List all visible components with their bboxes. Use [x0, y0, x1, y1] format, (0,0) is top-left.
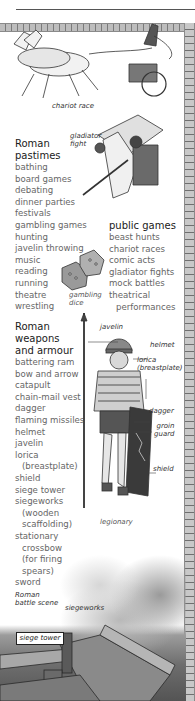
list-item: hunting: [15, 232, 87, 244]
list-item: javelin: [15, 438, 84, 450]
list-item: (breastplate): [15, 461, 84, 473]
pastimes-heading: Roman pastimes: [15, 138, 87, 162]
label-line: guard: [154, 430, 175, 438]
label-dagger: dagger: [149, 407, 174, 415]
list-item: board games: [15, 174, 87, 186]
gambling-dice-illustration: [60, 250, 105, 290]
list-item: siegeworks: [15, 496, 84, 508]
public-games-list: beast hunts chariot races comic acts gla…: [109, 232, 176, 313]
list-item: chariot races: [109, 244, 176, 256]
label-javelin: javelin: [100, 323, 123, 331]
siege-tower-label: siege tower: [16, 632, 64, 645]
chariot-race-caption: chariot race: [52, 102, 94, 110]
label-groin-guard: groin guard: [154, 422, 175, 438]
caption-line: Roman: [15, 591, 58, 599]
list-item: (wooden: [15, 508, 84, 520]
list-item: bathing: [15, 162, 87, 174]
siegeworks-caption: siegeworks: [65, 604, 104, 612]
top-rule: [16, 9, 195, 10]
list-item: gladiator fights: [109, 267, 176, 279]
list-item: chain-mail vest: [15, 392, 84, 404]
list-item: beast hunts: [109, 232, 176, 244]
list-item: shield: [15, 473, 84, 485]
list-item: festivals: [15, 208, 87, 220]
list-item: bow and arrow: [15, 369, 84, 381]
caption-line: gambling: [69, 291, 102, 299]
chariot-race-illustration: [4, 14, 184, 104]
public-games-section: public games beast hunts chariot races c…: [109, 220, 176, 313]
battle-scene-illustration: [0, 545, 186, 701]
heading-line: and armour: [15, 345, 84, 357]
list-item: comic acts: [109, 255, 176, 267]
heading-line: weapons: [15, 333, 84, 345]
label-line: (breastplate): [137, 364, 183, 372]
public-games-heading: public games: [109, 220, 176, 232]
label-helmet: helmet: [150, 341, 175, 349]
list-item: battering ram: [15, 357, 84, 369]
list-item: dagger: [15, 403, 84, 415]
weapons-heading: Roman weapons and armour: [15, 321, 84, 357]
legionary-caption: legionary: [100, 518, 133, 526]
list-item: dinner parties: [15, 197, 87, 209]
gambling-dice-caption: gambling dice: [69, 291, 102, 307]
caption-line: battle scene: [15, 599, 58, 607]
list-item: flaming missiles: [15, 415, 84, 427]
label-line: lorica: [137, 356, 183, 364]
list-item: lorica: [15, 450, 84, 462]
list-item: gambling games: [15, 220, 87, 232]
heading-line: pastimes: [15, 150, 87, 162]
battle-scene-caption: Roman battle scene: [15, 591, 58, 607]
heading-line: Roman: [15, 138, 87, 150]
siegeworks-drawing: [0, 615, 186, 701]
gladiator-fight-illustration: [78, 110, 173, 200]
label-shield: shield: [153, 465, 174, 473]
list-item: theatrical: [109, 290, 176, 302]
list-item: helmet: [15, 427, 84, 439]
list-item: catapult: [15, 380, 84, 392]
list-item: siege tower: [15, 485, 84, 497]
list-item: performances: [109, 302, 176, 314]
list-item: debating: [15, 185, 87, 197]
label-line: groin: [154, 422, 175, 430]
list-item: scaffolding): [15, 519, 84, 531]
label-lorica: lorica (breastplate): [137, 356, 183, 372]
caption-line: dice: [69, 299, 102, 307]
list-item: mock battles: [109, 278, 176, 290]
heading-line: Roman: [15, 321, 84, 333]
list-item: stationary: [15, 531, 84, 543]
